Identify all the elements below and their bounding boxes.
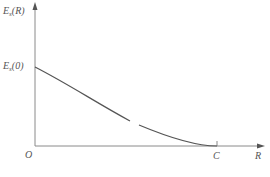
origin-label: O xyxy=(25,150,32,160)
y-intercept-label: Es(0) xyxy=(3,61,24,73)
y-axis-label-arg: (R) xyxy=(12,5,25,16)
x-axis-label: R xyxy=(255,151,261,161)
energy-curve-tail xyxy=(139,125,217,146)
energy-curve xyxy=(35,67,130,121)
y-axis-label: Es(R) xyxy=(3,6,25,18)
y-axis-arrow-icon xyxy=(33,2,38,10)
y-intercept-arg: (0) xyxy=(12,60,24,71)
chart-canvas xyxy=(0,0,270,177)
c-label: C xyxy=(213,151,220,161)
x-axis-arrow-icon xyxy=(257,144,265,149)
